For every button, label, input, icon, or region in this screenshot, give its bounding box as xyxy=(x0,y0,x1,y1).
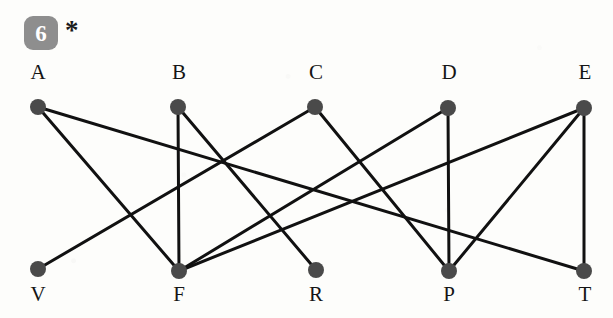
graph-node-label-c: C xyxy=(309,62,323,83)
graph-node-label-a: A xyxy=(30,62,45,83)
graph-node-a xyxy=(30,99,46,115)
graph-node-label-r: R xyxy=(309,284,323,305)
edge-layer xyxy=(38,107,584,271)
graph-node-f xyxy=(171,263,187,279)
graph-node-label-v: V xyxy=(30,284,45,305)
figure-root: 6 * ABCDEVFRPT xyxy=(0,0,613,318)
graph-edge-d-f xyxy=(179,108,448,271)
bipartite-graph-canvas xyxy=(0,0,613,318)
graph-node-d xyxy=(440,100,456,116)
graph-node-p xyxy=(441,263,457,279)
graph-edge-e-f xyxy=(179,108,584,271)
graph-edge-a-f xyxy=(38,107,179,271)
graph-node-v xyxy=(30,261,46,277)
graph-node-e xyxy=(576,100,592,116)
graph-edge-b-r xyxy=(178,107,316,270)
graph-edge-d-p xyxy=(448,108,449,271)
graph-node-b xyxy=(170,99,186,115)
graph-node-label-p: P xyxy=(443,284,455,305)
graph-node-label-d: D xyxy=(441,62,456,83)
graph-node-label-f: F xyxy=(173,284,185,305)
graph-edge-b-f xyxy=(178,107,179,271)
graph-edge-e-p xyxy=(449,108,584,271)
graph-node-t xyxy=(576,263,592,279)
graph-node-c xyxy=(307,99,323,115)
graph-edge-a-t xyxy=(38,107,584,271)
graph-node-r xyxy=(308,262,324,278)
graph-node-label-t: T xyxy=(579,284,592,305)
graph-node-label-b: B xyxy=(172,62,186,83)
graph-edge-c-v xyxy=(38,107,315,269)
graph-node-label-e: E xyxy=(579,62,592,83)
